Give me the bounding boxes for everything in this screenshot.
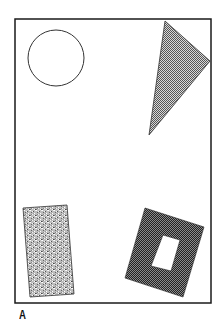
- square-frame-shape: [125, 208, 204, 297]
- circle-shape: [28, 30, 84, 86]
- figure-canvas: [0, 0, 222, 324]
- speckled-rectangle-shape: [23, 205, 74, 297]
- figure-label: A: [19, 308, 26, 322]
- triangle-shape: [149, 21, 210, 135]
